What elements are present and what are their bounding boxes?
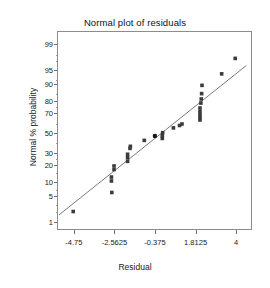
data-point <box>198 110 202 114</box>
data-point <box>142 139 146 143</box>
data-point <box>126 152 130 156</box>
x-tick-label: 4 <box>234 238 238 247</box>
data-point <box>110 191 114 195</box>
data-point <box>199 101 203 105</box>
data-point <box>129 145 133 149</box>
data-point <box>161 131 165 135</box>
data-points-group <box>71 57 237 214</box>
x-tick-mark <box>114 230 115 234</box>
normal-probability-plot-figure: Normal plot of residuals 151020305070809… <box>0 0 270 288</box>
normal-reference-line <box>59 65 246 214</box>
data-point <box>126 156 130 160</box>
x-axis-tick-marks <box>57 230 252 237</box>
data-point <box>126 160 130 164</box>
x-tick-label: -2.5625 <box>102 238 127 247</box>
data-point <box>199 97 203 101</box>
x-tick-label: -0.375 <box>144 238 165 247</box>
x-tick-label: 1.8125 <box>184 238 207 247</box>
x-axis-label: Residual <box>0 262 270 272</box>
data-point <box>172 126 176 130</box>
x-tick-mark <box>155 230 156 234</box>
x-tick-mark <box>196 230 197 234</box>
highlighted-data-point <box>153 134 157 138</box>
data-point <box>71 210 75 214</box>
data-point <box>200 92 204 96</box>
data-point <box>233 57 237 61</box>
data-point <box>112 168 116 172</box>
data-point <box>200 84 204 88</box>
x-tick-mark <box>236 230 237 234</box>
chart-title: Normal plot of residuals <box>0 17 270 28</box>
data-point <box>110 175 114 179</box>
data-point <box>198 106 202 110</box>
plot-area <box>57 31 252 230</box>
data-point <box>198 113 202 117</box>
data-point <box>110 179 114 183</box>
data-point <box>220 72 224 76</box>
data-point <box>180 122 184 126</box>
y-axis-label: Normal % probability <box>28 47 38 207</box>
plot-canvas <box>58 32 251 229</box>
data-point <box>112 164 116 168</box>
x-axis-tick-labels: -4.75-2.5625-0.3751.81254 <box>57 238 252 250</box>
reference-line <box>59 65 246 214</box>
x-tick-label: -4.75 <box>65 238 82 247</box>
x-tick-mark <box>74 230 75 234</box>
